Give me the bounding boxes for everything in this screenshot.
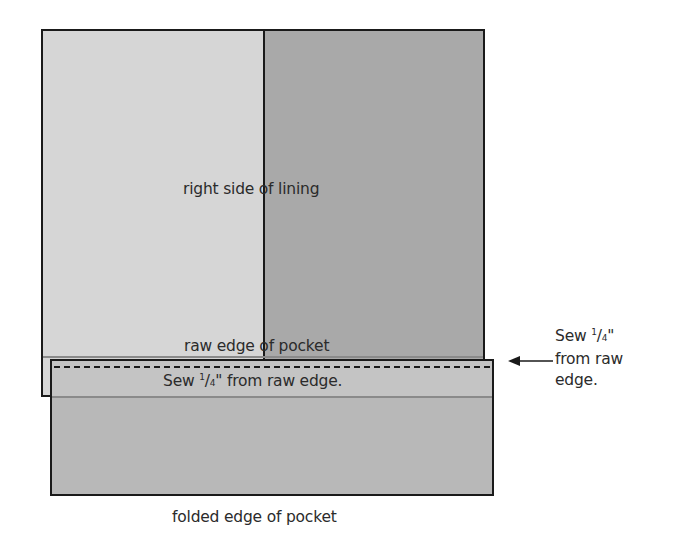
lining-label: right side of lining [183, 180, 319, 198]
sew-text: Sew [163, 372, 199, 390]
lining-guide-line [43, 356, 483, 358]
stitch-line [54, 366, 490, 368]
fraction-numerator: 1 [591, 327, 597, 337]
sew-instruction-label: Sew 1/4" from raw edge. [163, 372, 342, 390]
raw-edge-label: raw edge of pocket [184, 337, 329, 355]
folded-edge-label: folded edge of pocket [172, 508, 337, 526]
annotation-line-2: from raw [555, 349, 623, 370]
fraction-numerator: 1 [199, 372, 205, 382]
annotation-line-1: Sew 1/4" [555, 322, 623, 349]
sew-annotation: Sew 1/4" from raw edge. [555, 322, 623, 391]
annotation-text: Sew [555, 327, 591, 345]
inch-mark: " [607, 327, 614, 345]
annotation-line-3: edge. [555, 370, 623, 391]
arrow-left-icon [508, 355, 554, 367]
pocket-guide-line [52, 396, 492, 398]
sew-text-post: " from raw edge. [215, 372, 342, 390]
